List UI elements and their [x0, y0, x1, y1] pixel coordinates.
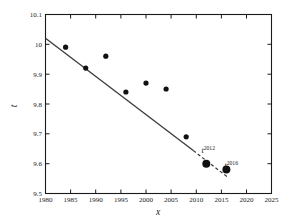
data-point-2012 [202, 160, 210, 168]
scatter-chart: 9.5 9.6 9.7 9.8 9.9 10 10.1 [0, 0, 288, 223]
x-tick-label-2025: 2025 [265, 196, 280, 204]
y-tick-label-10.1: 10.1 [30, 11, 43, 19]
y-tick-label-9.8: 9.8 [33, 101, 42, 109]
annotation-t-2016-superscript: 2016 [227, 160, 238, 166]
x-tick-label-1980: 1980 [39, 196, 54, 204]
x-axis-title: x [155, 207, 161, 217]
y-tick-label-9.7: 9.7 [33, 130, 42, 138]
plot-frame [46, 15, 272, 194]
data-point-1984 [63, 45, 68, 50]
x-tick-label-1985: 1985 [64, 196, 79, 204]
x-tick-label-2005: 2005 [164, 196, 179, 204]
y-tick-label-10: 10 [35, 41, 43, 49]
x-tick-label-2010: 2010 [189, 196, 204, 204]
data-point-2000 [143, 81, 148, 86]
chart-page: 9.5 9.6 9.7 9.8 9.9 10 10.1 [0, 0, 288, 223]
x-axis-ticks [46, 15, 272, 194]
annotation-t-2012-superscript: 2012 [204, 145, 215, 151]
y-tick-label-9.6: 9.6 [33, 160, 42, 168]
data-point-1992 [103, 54, 108, 59]
trend-line-solid [46, 38, 194, 150]
data-point-2004 [164, 86, 169, 91]
x-tick-label-2020: 2020 [240, 196, 255, 204]
y-axis-title: t [9, 104, 19, 107]
data-point-2008 [184, 134, 189, 139]
y-tick-label-9.9: 9.9 [33, 71, 42, 79]
annotation-t-2012: t2012 [202, 145, 216, 155]
x-tick-label-2015: 2015 [214, 196, 229, 204]
data-point-1996 [123, 89, 128, 94]
x-tick-label-1990: 1990 [89, 196, 104, 204]
x-tick-label-2000: 2000 [139, 196, 154, 204]
y-axis-ticks [46, 15, 272, 194]
x-tick-label-1995: 1995 [114, 196, 129, 204]
trend-line-dashed [193, 151, 227, 177]
data-point-1988 [83, 66, 88, 71]
annotation-t-2016: t2016 [225, 160, 239, 170]
